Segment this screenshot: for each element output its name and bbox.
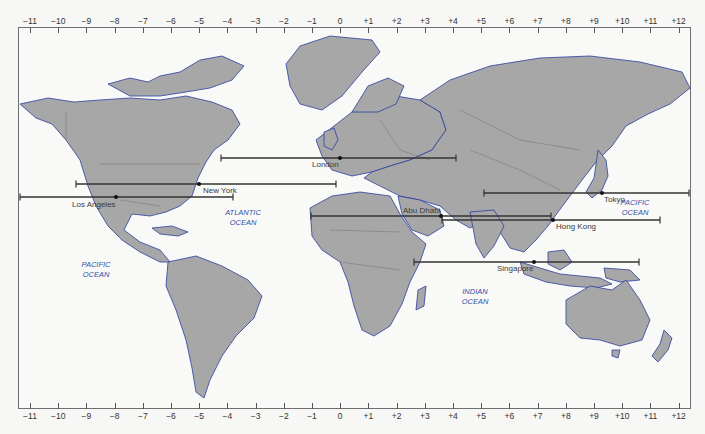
tick-mark [425, 403, 426, 409]
city-label: London [312, 160, 339, 169]
tick-mark [679, 27, 680, 33]
city-label: Hong Kong [556, 222, 596, 231]
tick-label: −3 [251, 411, 261, 421]
tick-mark [453, 27, 454, 33]
tick-mark [115, 403, 116, 409]
tick-label: +4 [448, 16, 458, 26]
tick-label: +6 [505, 16, 515, 26]
tick-mark [368, 403, 369, 409]
tick-mark [594, 403, 595, 409]
tick-label: −9 [82, 16, 92, 26]
tick-mark [397, 403, 398, 409]
tick-label: −8 [110, 411, 120, 421]
tick-mark [171, 27, 172, 33]
tick-mark [481, 27, 482, 33]
tick-label: −7 [138, 16, 148, 26]
tick-mark [538, 403, 539, 409]
city-marker-icon [197, 182, 201, 186]
tick-label: +9 [589, 411, 599, 421]
tick-label: +11 [643, 411, 657, 421]
tick-mark [509, 27, 510, 33]
tick-label: +8 [561, 16, 571, 26]
tick-label: +7 [533, 16, 543, 26]
tick-label: +2 [392, 16, 402, 26]
tick-mark [566, 403, 567, 409]
tick-mark [171, 403, 172, 409]
tick-mark [143, 27, 144, 33]
tick-mark [509, 403, 510, 409]
city-marker-icon [551, 218, 555, 222]
tick-label: +11 [643, 16, 657, 26]
tick-label: +5 [476, 411, 486, 421]
landmass-arctic-islands [108, 56, 244, 96]
tick-label: −5 [194, 411, 204, 421]
tick-label: −6 [166, 411, 176, 421]
tick-mark [256, 403, 257, 409]
tick-label: +10 [615, 16, 629, 26]
tick-mark [566, 27, 567, 33]
city-label: Abu Dhabi [403, 206, 440, 215]
tick-mark [340, 403, 341, 409]
tick-mark [86, 403, 87, 409]
tick-mark [650, 403, 651, 409]
tick-mark [199, 403, 200, 409]
tick-label: −10 [51, 16, 65, 26]
tick-mark [622, 403, 623, 409]
tick-mark [481, 403, 482, 409]
tick-label: +12 [671, 16, 685, 26]
tick-mark [650, 27, 651, 33]
tick-label: +3 [420, 16, 430, 26]
tick-label: −5 [194, 16, 204, 26]
tick-label: 0 [338, 16, 343, 26]
tick-mark [58, 27, 59, 33]
tick-mark [227, 403, 228, 409]
tick-label: −3 [251, 16, 261, 26]
tick-label: −9 [82, 411, 92, 421]
landmass-north-america [20, 96, 240, 262]
world-map [0, 0, 705, 434]
tick-label: −2 [279, 411, 289, 421]
tick-mark [594, 27, 595, 33]
tick-label: −4 [223, 411, 233, 421]
landmass-borneo [548, 250, 572, 270]
tick-label: −10 [51, 411, 65, 421]
tick-mark [425, 27, 426, 33]
tick-mark [538, 27, 539, 33]
ocean-label: INDIAN OCEAN [455, 287, 495, 307]
tick-mark [397, 27, 398, 33]
city-label: Singapore [497, 264, 533, 273]
landmass-south-america [166, 256, 262, 398]
tick-label: −11 [23, 411, 37, 421]
tick-mark [453, 403, 454, 409]
tick-label: +10 [615, 411, 629, 421]
landmass-madagascar [416, 286, 426, 310]
city-marker-icon [114, 195, 118, 199]
tick-mark [622, 27, 623, 33]
tick-label: −8 [110, 16, 120, 26]
tick-label: +1 [364, 16, 374, 26]
tick-mark [30, 403, 31, 409]
ocean-label: PACIFIC OCEAN [76, 260, 116, 280]
tick-mark [30, 27, 31, 33]
city-label: New York [203, 186, 237, 195]
tick-label: 0 [338, 411, 343, 421]
tick-mark [340, 27, 341, 33]
tick-label: −2 [279, 16, 289, 26]
tick-label: +3 [420, 411, 430, 421]
tick-label: +8 [561, 411, 571, 421]
tick-mark [199, 27, 200, 33]
tick-label: +9 [589, 16, 599, 26]
tick-mark [312, 403, 313, 409]
ocean-label: PACIFIC OCEAN [615, 198, 655, 218]
tick-mark [256, 27, 257, 33]
tick-mark [115, 27, 116, 33]
landmass-tasmania [612, 350, 620, 358]
tick-label: −7 [138, 411, 148, 421]
tick-label: −6 [166, 16, 176, 26]
tick-label: +12 [671, 411, 685, 421]
landmass-india [470, 210, 504, 258]
tick-mark [312, 27, 313, 33]
tick-label: +1 [364, 411, 374, 421]
tick-mark [284, 27, 285, 33]
landmass-new-zealand [652, 330, 672, 362]
